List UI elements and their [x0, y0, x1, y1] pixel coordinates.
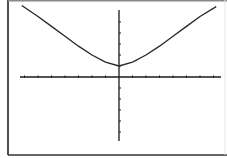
graph-plot	[0, 0, 227, 158]
calculator-graph-screen	[0, 0, 227, 158]
